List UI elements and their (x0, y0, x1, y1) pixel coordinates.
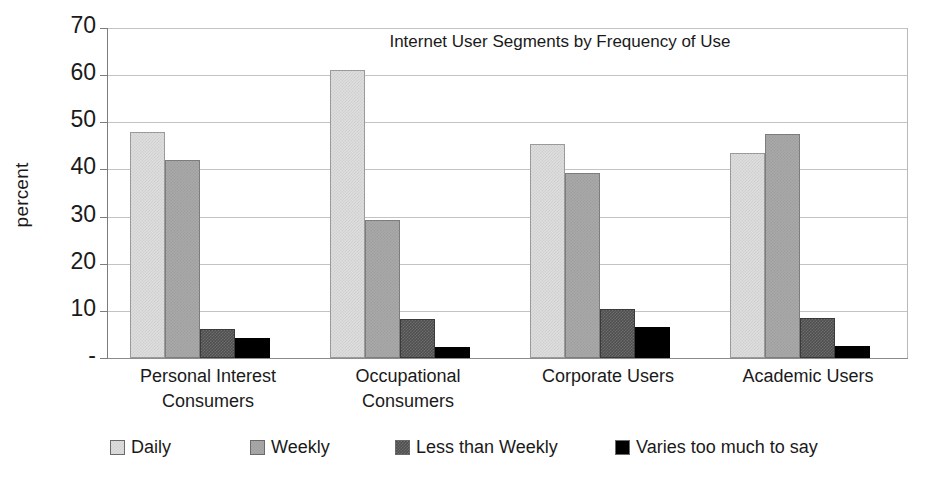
x-axis-category-labels: Personal InterestConsumersOccupationalCo… (108, 364, 908, 420)
x-axis-label: Personal InterestConsumers (108, 364, 308, 414)
bar[interactable] (235, 338, 270, 358)
bar[interactable] (730, 153, 765, 358)
legend-label: Varies too much to say (636, 437, 818, 458)
bar[interactable] (400, 319, 435, 358)
bar[interactable] (130, 132, 165, 358)
legend-label: Less than Weekly (416, 437, 558, 458)
legend-item[interactable]: Weekly (250, 434, 330, 460)
legend-label: Daily (131, 437, 171, 458)
legend-item[interactable]: Varies too much to say (615, 434, 818, 460)
bar[interactable] (165, 160, 200, 358)
legend-label: Weekly (271, 437, 330, 458)
gridline-0 (108, 358, 908, 359)
legend: DailyWeeklyLess than WeeklyVaries too mu… (110, 434, 870, 462)
x-axis-label-line: Occupational (308, 364, 508, 389)
x-axis-label: OccupationalConsumers (308, 364, 508, 414)
bar[interactable] (200, 329, 235, 358)
bar[interactable] (600, 309, 635, 358)
bar[interactable] (765, 134, 800, 358)
bar[interactable] (330, 70, 365, 359)
legend-item[interactable]: Daily (110, 434, 171, 460)
plot-area (108, 28, 908, 358)
bar-group (330, 28, 470, 358)
legend-swatch-icon (110, 440, 125, 455)
y-tick-label-50: 50 (44, 106, 96, 133)
bar[interactable] (835, 346, 870, 358)
x-axis-label-line: Academic Users (708, 364, 908, 389)
chart-title: Internet User Segments by Frequency of U… (330, 32, 790, 52)
y-axis-line (107, 28, 108, 358)
x-axis-label-line: Consumers (108, 389, 308, 414)
y-tick-label-20: 20 (44, 248, 96, 275)
x-axis-label-line: Corporate Users (508, 364, 708, 389)
y-tick-label-70: 70 (44, 12, 96, 39)
legend-swatch-icon (615, 440, 630, 455)
bar[interactable] (565, 173, 600, 358)
x-axis-label: Academic Users (708, 364, 908, 389)
bar[interactable] (365, 220, 400, 358)
legend-item[interactable]: Less than Weekly (395, 434, 558, 460)
x-axis-label-line: Personal Interest (108, 364, 308, 389)
legend-swatch-icon (250, 440, 265, 455)
bar[interactable] (800, 318, 835, 358)
bar[interactable] (435, 347, 470, 358)
bar-group (130, 28, 270, 358)
bar-group (530, 28, 670, 358)
x-axis-label: Corporate Users (508, 364, 708, 389)
y-tick-label-30: 30 (44, 201, 96, 228)
y-tick-label--: - (44, 342, 96, 369)
bar-chart: percent 70605040302010- Internet User Se… (0, 0, 936, 481)
x-axis-label-line: Consumers (308, 389, 508, 414)
bar[interactable] (635, 327, 670, 358)
bar-group (730, 28, 870, 358)
legend-swatch-icon (395, 440, 410, 455)
y-tick-label-10: 10 (44, 295, 96, 322)
bar[interactable] (530, 144, 565, 358)
y-tick-label-60: 60 (44, 59, 96, 86)
y-tick-label-40: 40 (44, 153, 96, 180)
